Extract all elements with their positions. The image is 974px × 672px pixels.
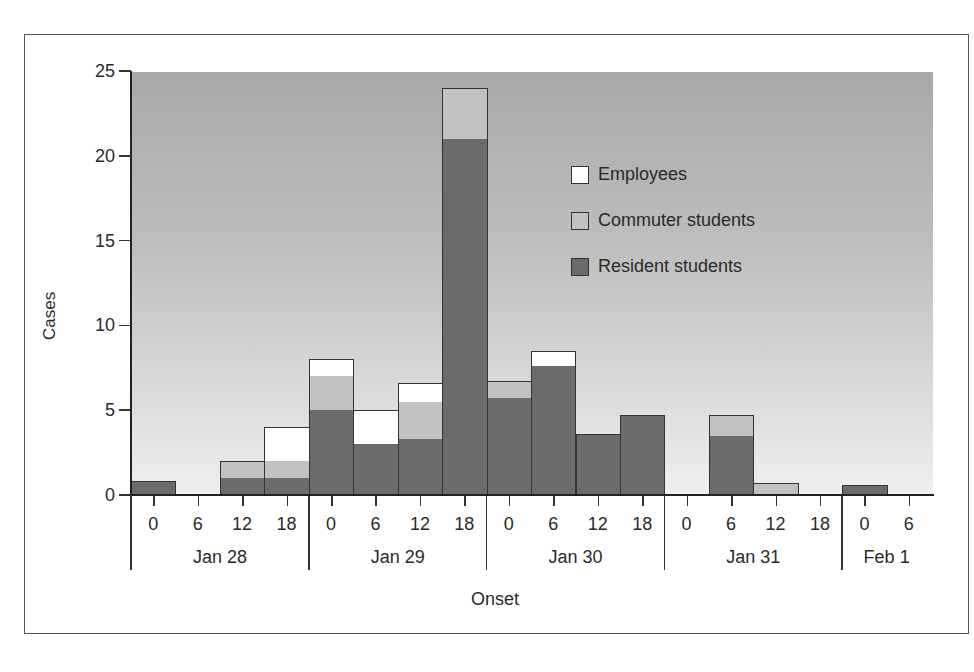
x-tick: [375, 496, 377, 506]
x-tick: [864, 496, 866, 506]
employees-swatch-icon: [571, 166, 589, 184]
x-tick-label: 0: [844, 514, 884, 535]
y-tick: [119, 494, 131, 496]
x-tick: [153, 496, 155, 506]
bar-outline: [353, 410, 398, 495]
x-tick: [776, 496, 778, 506]
x-tick-label: 6: [889, 514, 929, 535]
x-axis: [130, 494, 934, 496]
x-tick: [509, 496, 511, 506]
x-tick-label: 0: [667, 514, 707, 535]
x-tick: [642, 496, 644, 506]
bar-outline: [264, 427, 309, 495]
x-tick: [242, 496, 244, 506]
bar-outline: [576, 434, 621, 495]
legend-label: Employees: [598, 164, 687, 185]
y-axis: [130, 71, 132, 496]
x-tick: [420, 496, 422, 506]
y-tick-label: 5: [75, 401, 115, 419]
legend-label: Commuter students: [598, 210, 755, 231]
legend: Employees Commuter students Resident stu…: [571, 163, 755, 301]
x-tick-label: 18: [267, 514, 307, 535]
bar-outline: [487, 381, 532, 495]
x-tick-label: 12: [222, 514, 262, 535]
x-tick-label: 0: [133, 514, 173, 535]
bar-outline: [709, 415, 754, 495]
x-tick: [553, 496, 555, 506]
x-tick-label: 6: [355, 514, 395, 535]
bar-outline: [442, 88, 487, 495]
y-axis-title: Cases: [40, 292, 60, 340]
x-tick-label: 12: [578, 514, 618, 535]
y-tick: [119, 240, 131, 242]
y-tick: [119, 409, 131, 411]
day-label: Jan 29: [309, 547, 487, 568]
x-tick-label: 6: [533, 514, 573, 535]
legend-item-employees: Employees: [571, 163, 755, 186]
x-tick: [198, 496, 200, 506]
bar-outline: [220, 461, 265, 495]
x-tick: [909, 496, 911, 506]
x-tick-label: 0: [311, 514, 351, 535]
bar-outline: [620, 415, 665, 495]
legend-label: Resident students: [598, 256, 742, 277]
x-axis-title: Onset: [0, 589, 974, 610]
x-tick: [731, 496, 733, 506]
resident-swatch-icon: [571, 258, 589, 276]
y-tick-label: 15: [75, 232, 115, 250]
bar-outline: [309, 359, 354, 495]
x-tick-label: 18: [800, 514, 840, 535]
x-tick-label: 18: [444, 514, 484, 535]
x-tick: [287, 496, 289, 506]
y-tick-label: 20: [75, 147, 115, 165]
y-tick-label: 10: [75, 316, 115, 334]
y-tick-label: 0: [75, 486, 115, 504]
day-label: Feb 1: [842, 547, 931, 568]
x-tick-label: 18: [622, 514, 662, 535]
legend-item-resident: Resident students: [571, 255, 755, 278]
commuter-swatch-icon: [571, 212, 589, 230]
x-tick: [820, 496, 822, 506]
x-tick: [331, 496, 333, 506]
x-tick: [687, 496, 689, 506]
x-tick-label: 12: [400, 514, 440, 535]
x-tick-label: 0: [489, 514, 529, 535]
bar-outline: [131, 481, 176, 495]
day-label: Jan 28: [131, 547, 309, 568]
y-tick: [119, 325, 131, 327]
legend-item-commuter: Commuter students: [571, 209, 755, 232]
x-tick: [464, 496, 466, 506]
x-tick-label: 12: [756, 514, 796, 535]
bar-outline: [531, 351, 576, 495]
x-axis-title-text: Onset: [471, 589, 519, 609]
bar-outline: [398, 383, 443, 495]
x-tick: [598, 496, 600, 506]
y-tick-label: 25: [75, 62, 115, 80]
x-tick-label: 6: [711, 514, 751, 535]
day-label: Jan 30: [487, 547, 665, 568]
x-tick-label: 6: [178, 514, 218, 535]
y-tick: [119, 155, 131, 157]
y-tick: [119, 70, 131, 72]
day-label: Jan 31: [664, 547, 842, 568]
